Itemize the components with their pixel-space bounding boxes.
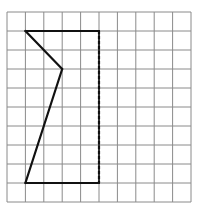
grid-diagram [0,0,201,210]
